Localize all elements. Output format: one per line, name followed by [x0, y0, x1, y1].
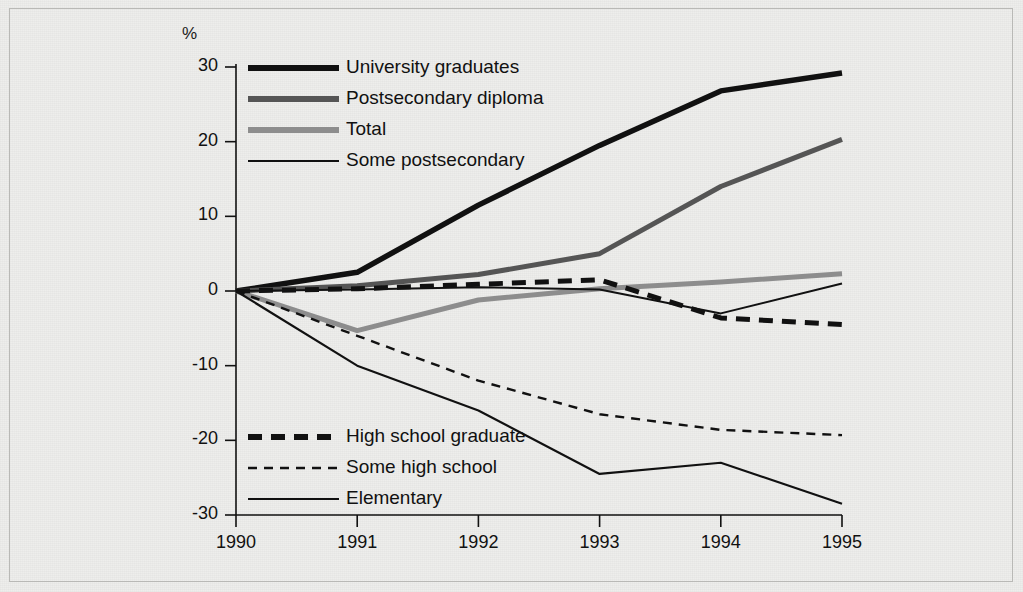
y-axis-tick-label: 10: [160, 204, 218, 225]
legend-label-top: Postsecondary diploma: [346, 87, 544, 109]
x-axis-tick-label: 1994: [681, 532, 761, 553]
y-axis-tick-label: -10: [160, 354, 218, 375]
chart-page: % 3020100-10-20-30 199019911992199319941…: [0, 0, 1023, 592]
legend-label-top: University graduates: [346, 56, 519, 78]
legend-label-top: Total: [346, 118, 386, 140]
y-axis-tick-label: 20: [160, 130, 218, 151]
series-line: [236, 291, 842, 435]
x-axis-tick-label: 1993: [560, 532, 640, 553]
legend-label-bottom: Elementary: [346, 487, 442, 509]
x-axis-tick-label: 1991: [317, 532, 397, 553]
x-axis-tick-label: 1992: [438, 532, 518, 553]
legend-label-bottom: Some high school: [346, 456, 497, 478]
x-axis-tick-label: 1995: [802, 532, 882, 553]
series-line: [236, 139, 842, 291]
y-axis-tick-label: 30: [160, 55, 218, 76]
y-axis-tick-label: -20: [160, 428, 218, 449]
legend-label-top: Some postsecondary: [346, 149, 525, 171]
x-axis-tick-label: 1990: [196, 532, 276, 553]
legend-label-bottom: High school graduate: [346, 425, 526, 447]
y-axis-tick-label: -30: [160, 503, 218, 524]
y-axis-tick-label: 0: [160, 279, 218, 300]
